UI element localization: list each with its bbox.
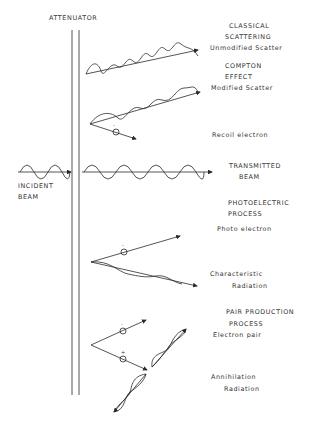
photo-electron-label: Photo electron [217,225,272,233]
annihilation-label-2: Radiation [224,385,260,393]
recoil-electron-label: Recoil electron [212,131,268,139]
photoelectric-title-1: PHOTOELECTRIC [228,199,289,207]
characteristic-label-1: Characteristic [210,270,263,278]
pair-title-1: PAIR PRODUCTION [226,308,294,316]
transmitted-beam [82,165,212,179]
photo-electron-track [91,236,180,262]
characteristic-label-2: Radiation [232,282,268,290]
diagram-canvas [0,0,317,427]
pair-positive-sign: + [121,349,126,355]
electron-pair-label: Electron pair [213,331,261,339]
attenuator-label: ATTENUATOR [49,14,97,22]
compton-subtitle: Modified Scatter [211,84,273,92]
annihilation-radiation-down [114,374,146,412]
pair-positron-track [91,345,147,370]
transmitted-label-1: TRANSMITTED [229,162,281,170]
attenuator-plates [72,30,79,395]
annihilation-label-1: Annihilation [211,373,256,381]
classical-title-2: SCATTERING [225,33,271,41]
incident-label-2: BEAM [18,193,39,201]
annihilation-radiation-up [152,329,186,367]
compton-title-2: EFFECT [225,73,252,81]
classical-subtitle: Unmodified Scatter [210,44,283,52]
classical-title-1: CLASSICAL [229,22,269,30]
pair-electron-track [91,320,146,345]
classical-scatter-wave [86,43,198,74]
compton-electron-sign: - [113,122,115,128]
pair-negative-sign: - [121,321,123,327]
incident-beam [18,165,71,179]
transmitted-label-2: BEAM [239,173,260,181]
photo-electron-sign: - [122,242,124,248]
characteristic-radiation-wave [91,262,197,286]
compton-title-1: COMPTON [225,62,262,70]
pair-title-2: PROCESS [229,320,263,328]
photoelectric-title-2: PROCESS [228,210,262,218]
compton-scatter-wave [90,87,200,124]
incident-label-1: INCIDENT [18,182,53,190]
